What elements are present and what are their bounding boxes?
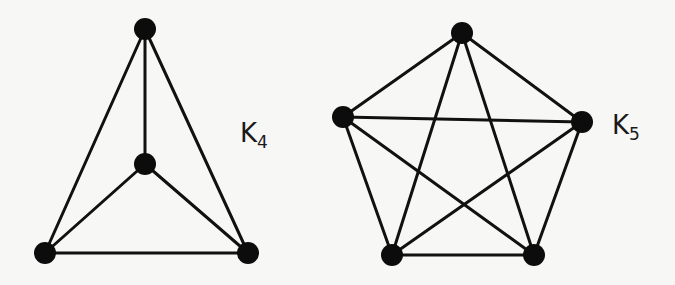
k4-edge [145, 164, 248, 253]
k5-vertex [381, 244, 403, 266]
k5-edge [462, 33, 582, 122]
k4-edge [45, 164, 145, 253]
k4-label-subscript: 4 [257, 132, 268, 152]
k5-label: K5 [612, 112, 640, 143]
k5-graph [332, 22, 593, 266]
k4-edge [45, 29, 145, 253]
k4-graph [34, 18, 259, 264]
complete-graphs-diagram: K4 K5 [0, 0, 675, 285]
k5-edge [343, 33, 462, 117]
k5-vertex [451, 22, 473, 44]
k5-edge [343, 117, 582, 122]
k5-edge [392, 122, 582, 255]
k5-vertex [332, 106, 354, 128]
k5-edge [462, 33, 534, 255]
k5-edge [534, 122, 582, 255]
k4-edge [145, 29, 248, 253]
k5-label-letter: K [612, 110, 629, 140]
k5-vertex [571, 111, 593, 133]
k4-vertex [134, 153, 156, 175]
k4-label-letter: K [240, 118, 257, 148]
graph-canvas [0, 0, 675, 285]
k4-label: K4 [240, 120, 268, 151]
k5-edge [343, 117, 392, 255]
k5-vertex [523, 244, 545, 266]
k5-label-subscript: 5 [629, 124, 640, 144]
k4-vertex [237, 242, 259, 264]
k4-vertex [34, 242, 56, 264]
k4-vertex [134, 18, 156, 40]
k5-edge [392, 33, 462, 255]
k5-edge [343, 117, 534, 255]
